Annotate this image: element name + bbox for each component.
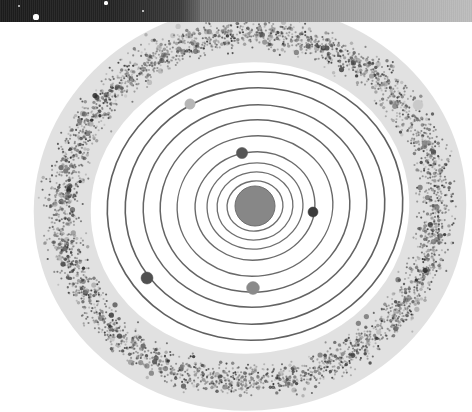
sun-disc <box>235 186 275 226</box>
body-f <box>413 100 423 110</box>
body-c <box>247 282 260 295</box>
body-d <box>141 272 153 284</box>
solar-system-figure: Solar System Orbital Diagram Sun dense s… <box>0 0 472 412</box>
orbit-layer <box>0 0 472 412</box>
body-e <box>185 99 195 109</box>
body-a <box>308 207 318 217</box>
body-b <box>236 147 247 158</box>
